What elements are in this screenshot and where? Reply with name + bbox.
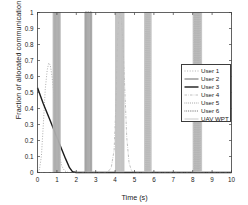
legend-line-swatch-icon bbox=[184, 107, 199, 115]
legend-line-swatch-icon bbox=[184, 99, 199, 107]
y-axis-title-text: Fraction of allocated communication time bbox=[14, 0, 23, 119]
x-axis-title-text: Time (s) bbox=[121, 193, 147, 202]
legend-item-label: User 3 bbox=[201, 83, 219, 91]
legend-item-user-2[interactable]: User 2 bbox=[184, 75, 230, 83]
legend-item-user-1[interactable]: User 1 bbox=[184, 67, 230, 75]
legend-line-swatch-icon bbox=[184, 67, 199, 75]
legend-item-user-3[interactable]: User 3 bbox=[184, 83, 230, 91]
x-tick-label: 4 bbox=[108, 176, 122, 183]
series-uav-wpt bbox=[53, 13, 202, 173]
legend-line-swatch-icon bbox=[184, 83, 199, 91]
x-tick-label: 6 bbox=[147, 176, 161, 183]
chart-legend: User 1User 2User 3User 4User 5User 6UAV … bbox=[181, 64, 231, 122]
x-tick-label: 8 bbox=[186, 176, 200, 183]
legend-line-swatch-icon bbox=[184, 115, 199, 123]
legend-item-user-5[interactable]: User 5 bbox=[184, 99, 230, 107]
legend-item-label: User 5 bbox=[201, 99, 219, 107]
chart-figure: 00.10.20.30.40.50.60.70.80.91 0123456789… bbox=[0, 0, 248, 205]
legend-item-label: User 4 bbox=[201, 91, 219, 99]
x-tick-label: 0 bbox=[31, 176, 45, 183]
y-tick-label: 0 bbox=[17, 169, 34, 176]
x-axis-title: Time (s) bbox=[37, 186, 232, 204]
legend-item-label: User 2 bbox=[201, 75, 219, 83]
x-tick-label: 2 bbox=[69, 176, 83, 183]
legend-line-swatch-icon bbox=[184, 91, 199, 99]
legend-item-label: User 1 bbox=[201, 67, 219, 75]
y-axis-title: Fraction of allocated communication time bbox=[12, 0, 24, 132]
legend-line-swatch-icon bbox=[184, 75, 199, 83]
legend-item-user-4[interactable]: User 4 bbox=[184, 91, 230, 99]
y-tick-label: 0.1 bbox=[17, 153, 34, 160]
x-tick-label: 9 bbox=[205, 176, 219, 183]
x-tick-label: 3 bbox=[89, 176, 103, 183]
x-tick-label: 1 bbox=[50, 176, 64, 183]
x-tick-label: 10 bbox=[225, 176, 239, 183]
legend-item-label: User 6 bbox=[201, 107, 219, 115]
x-tick-label: 5 bbox=[128, 176, 142, 183]
x-tick-label: 7 bbox=[166, 176, 180, 183]
legend-item-user-6[interactable]: User 6 bbox=[184, 107, 230, 115]
y-tick-label: 0.2 bbox=[17, 137, 34, 144]
legend-item-uav-wpt[interactable]: UAV WPT bbox=[184, 115, 230, 123]
legend-item-label: UAV WPT bbox=[201, 115, 229, 123]
